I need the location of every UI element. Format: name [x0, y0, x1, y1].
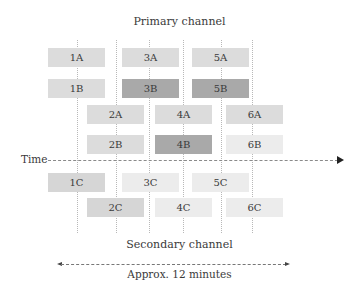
segment-box-1a: 1A [48, 48, 105, 67]
time-axis-line [48, 160, 338, 161]
segment-box-2a: 2A [87, 105, 144, 124]
segment-box-6a: 6A [226, 105, 283, 124]
segment-box-2b: 2B [87, 135, 144, 154]
segment-box-3b: 3B [122, 79, 179, 98]
segment-box-1b: 1B [48, 79, 105, 98]
duration-line [61, 264, 286, 265]
time-axis-arrowhead-icon [337, 156, 344, 164]
vertical-guide-line [149, 40, 150, 233]
segment-box-5c: 5C [192, 173, 249, 192]
segment-box-5b: 5B [192, 79, 249, 98]
secondary-channel-title: Secondary channel [0, 238, 359, 251]
duration-label: Approx. 12 minutes [0, 268, 359, 280]
segment-box-3c: 3C [122, 173, 179, 192]
segment-box-3a: 3A [122, 48, 179, 67]
primary-channel-title: Primary channel [0, 15, 359, 28]
segment-box-4b: 4B [155, 135, 212, 154]
segment-box-6c: 6C [226, 198, 283, 217]
segment-box-2c: 2C [87, 198, 144, 217]
segment-box-4c: 4C [155, 198, 212, 217]
segment-box-5a: 5A [192, 48, 249, 67]
vertical-guide-line [221, 40, 222, 233]
segment-box-6b: 6B [226, 135, 283, 154]
time-axis-label: Time [21, 153, 48, 165]
segment-box-4a: 4A [155, 105, 212, 124]
vertical-guide-line [77, 40, 78, 233]
segment-box-1c: 1C [48, 173, 105, 192]
duration-arrow-right-icon [285, 262, 290, 266]
